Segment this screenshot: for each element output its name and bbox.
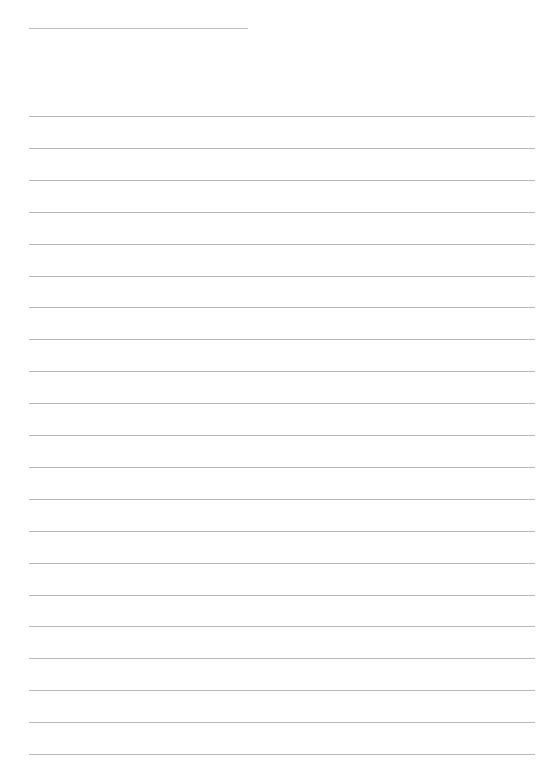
ruled-line <box>29 212 535 213</box>
ruled-line <box>29 180 535 181</box>
ruled-line <box>29 722 535 723</box>
ruled-line <box>29 276 535 277</box>
ruled-line <box>29 244 535 245</box>
ruled-line <box>29 690 535 691</box>
lined-paper-page <box>0 0 543 773</box>
ruled-line <box>29 499 535 500</box>
ruled-line <box>29 563 535 564</box>
ruled-line <box>29 435 535 436</box>
ruled-line <box>29 531 535 532</box>
ruled-line <box>29 467 535 468</box>
ruled-line <box>29 658 535 659</box>
ruled-line <box>29 371 535 372</box>
ruled-line <box>29 307 535 308</box>
ruled-line <box>29 339 535 340</box>
ruled-line <box>29 754 535 755</box>
ruled-line <box>29 626 535 627</box>
header-rule-line <box>29 28 248 29</box>
ruled-line <box>29 116 535 117</box>
ruled-line <box>29 403 535 404</box>
ruled-line <box>29 148 535 149</box>
ruled-line <box>29 595 535 596</box>
